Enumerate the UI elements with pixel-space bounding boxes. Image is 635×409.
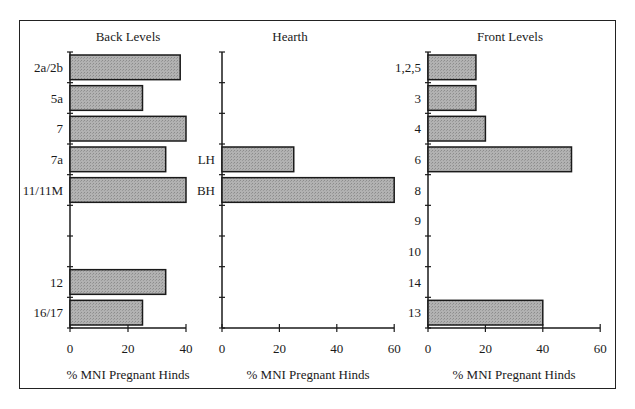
x-tick-label: 0 xyxy=(219,341,226,356)
category-label: 7a xyxy=(51,152,64,167)
bar xyxy=(222,178,394,203)
bar xyxy=(428,147,572,172)
category-label: 2a/2b xyxy=(34,60,63,75)
x-tick-label: 60 xyxy=(388,341,401,356)
category-label: 12 xyxy=(50,275,63,290)
bar xyxy=(70,270,166,295)
category-label: 11/11M xyxy=(23,183,64,198)
chart-canvas: Back Levels02040% MNI Pregnant Hinds2a/2… xyxy=(0,0,635,409)
bar xyxy=(70,300,143,325)
category-label: BH xyxy=(197,183,215,198)
category-label: 8 xyxy=(415,183,422,198)
bar xyxy=(222,147,294,172)
category-label: 9 xyxy=(415,213,422,228)
x-tick-label: 40 xyxy=(180,341,193,356)
bar xyxy=(70,55,180,80)
category-label: 4 xyxy=(415,121,422,136)
x-axis-label: % MNI Pregnant Hinds xyxy=(247,367,370,382)
x-tick-label: 40 xyxy=(536,341,549,356)
x-tick-label: 0 xyxy=(67,341,74,356)
panel-title: Back Levels xyxy=(96,29,161,44)
panel-hearth: Hearth0204060% MNI Pregnant HindsLHBH xyxy=(197,29,401,382)
category-label: 1,2,5 xyxy=(395,60,421,75)
category-label: 14 xyxy=(408,275,422,290)
x-tick-label: 20 xyxy=(273,341,286,356)
category-label: 7 xyxy=(57,121,64,136)
bar xyxy=(428,300,543,325)
x-tick-label: 0 xyxy=(425,341,432,356)
category-label: 13 xyxy=(408,305,421,320)
x-tick-label: 20 xyxy=(479,341,492,356)
x-tick-label: 60 xyxy=(594,341,607,356)
category-label: 5a xyxy=(51,91,64,106)
category-label: 3 xyxy=(415,91,422,106)
category-label: LH xyxy=(198,152,215,167)
panel-back-levels: Back Levels02040% MNI Pregnant Hinds2a/2… xyxy=(23,29,193,382)
panel-title: Front Levels xyxy=(477,29,543,44)
bar xyxy=(428,116,485,141)
x-axis-label: % MNI Pregnant Hinds xyxy=(66,367,189,382)
x-axis-label: % MNI Pregnant Hinds xyxy=(453,367,576,382)
bar xyxy=(70,178,186,203)
bar xyxy=(428,86,476,111)
bar xyxy=(70,86,143,111)
category-label: 10 xyxy=(408,244,421,259)
x-tick-label: 40 xyxy=(330,341,343,356)
category-label: 16/17 xyxy=(33,305,63,320)
panel-title: Hearth xyxy=(272,29,308,44)
category-label: 6 xyxy=(415,152,422,167)
panel-front-levels: Front Levels0204060% MNI Pregnant Hinds1… xyxy=(395,29,607,382)
bar xyxy=(70,147,166,172)
bar xyxy=(428,55,476,80)
bar xyxy=(70,116,186,141)
x-tick-label: 20 xyxy=(122,341,135,356)
